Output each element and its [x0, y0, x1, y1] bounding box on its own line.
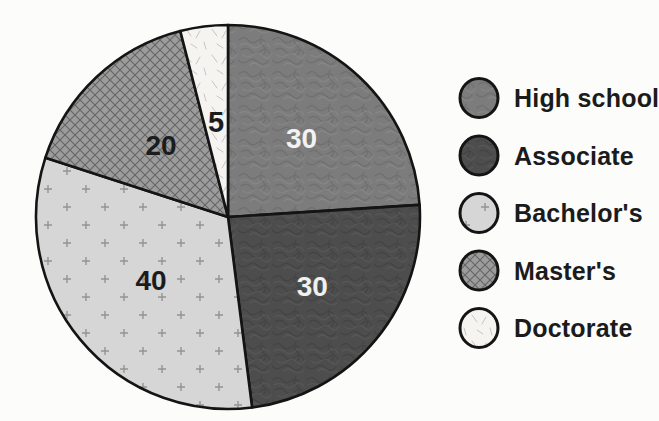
pie-chart-figure: 303040205High schoolAssociateBachelor'sM…	[0, 0, 659, 421]
legend-swatch-high-school	[460, 79, 498, 118]
slice-value-associate: 30	[297, 271, 328, 302]
slice-value-master-s: 20	[145, 130, 176, 161]
legend-swatch-bachelor-s	[460, 194, 498, 233]
legend-swatch-master-s	[460, 251, 498, 290]
pie-slice-associate	[228, 205, 420, 408]
legend-label-bachelor-s: Bachelor's	[514, 199, 643, 227]
legend-label-high-school: High school	[514, 84, 659, 112]
slice-value-high-school: 30	[286, 123, 317, 154]
slice-value-doctorate: 5	[208, 106, 224, 138]
pie-slice-high-school	[228, 25, 420, 217]
legend-label-master-s: Master's	[514, 257, 616, 285]
education-pie-chart: 303040205High schoolAssociateBachelor'sM…	[0, 0, 659, 421]
legend-label-associate: Associate	[514, 142, 634, 170]
legend-label-doctorate: Doctorate	[514, 314, 633, 342]
legend-swatch-associate	[460, 136, 498, 175]
slice-value-bachelor-s: 40	[136, 265, 167, 296]
legend-swatch-doctorate	[460, 309, 498, 348]
